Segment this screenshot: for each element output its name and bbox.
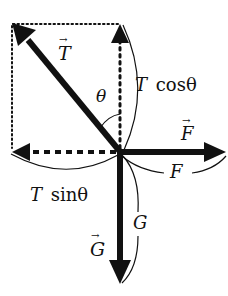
angle-label: θ (96, 88, 106, 105)
t-sin-label: T sinθ (30, 186, 88, 204)
t-cos-magnitude: T (135, 74, 147, 95)
force-magnitude-label: F (170, 163, 183, 181)
horizontal-component-arrowhead (12, 143, 30, 161)
tension-vector-line (28, 40, 122, 154)
angle-arc (100, 114, 120, 128)
force-vector-label: F (181, 125, 194, 143)
t-cos-function: cosθ (156, 74, 197, 95)
gravity-vector-label: G (90, 240, 105, 259)
gravity-brace-top (123, 156, 138, 212)
force-brace-left (122, 156, 164, 173)
gravity-brace-bottom (122, 236, 138, 283)
t-sin-magnitude: T (30, 184, 42, 205)
t-cos-label: T cosθ (135, 76, 197, 94)
force-diagram (0, 0, 228, 296)
gravity-magnitude-label: G (133, 214, 147, 232)
t-sin-function: sinθ (51, 184, 88, 205)
gravity-vector-arrowhead (109, 260, 131, 284)
tension-vector-label: T (58, 44, 71, 63)
